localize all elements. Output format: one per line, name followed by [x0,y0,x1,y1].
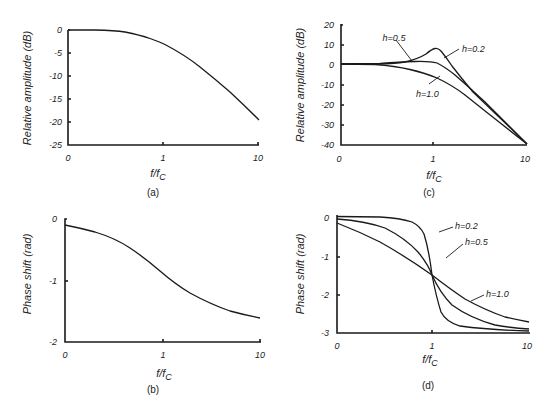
panel-c-ytick: -20 [321,100,334,110]
panel-d-ytick: -3 [321,328,329,338]
panel-c-leader-h05 [396,40,412,61]
panel-c-ytick: 10 [324,40,334,50]
panel-b-ylabel: Phase shift (rad) [21,233,33,314]
panel-c-xtick: 10 [520,154,530,164]
panel-d-ytick: -2 [321,290,329,300]
panel-d-xtick: 0 [334,341,339,351]
panel-b-xlabel: f/fC [156,367,172,382]
panel-d-ytick: 0 [324,213,329,223]
panel-c-curve-h05 [341,61,527,144]
panel-a-xlabel: f/fC [150,167,166,182]
panel-c-curve-h10 [341,64,527,144]
panel-a-xtick: 1 [160,153,165,163]
panel-d-curve-h02 [337,217,529,332]
panel-c: 20 10 0 -10 -20 -30 -40 0 1 10 Relative … [294,20,530,198]
panel-c-axes [341,24,527,145]
panel-c-annotation-h05: h=0.5 [383,33,407,43]
panel-a-ytick: -5 [54,48,63,58]
panel-d-leader-h05 [446,244,463,258]
panel-b-ytick: -2 [49,337,57,347]
panel-c-ytick: -10 [321,80,334,90]
figure-canvas: 0 -5 -10 -15 -20 -25 0 1 10 Relative amp… [0,0,553,404]
panel-a-axes [68,30,259,145]
panel-a-ylabel: Relative amplitude (dB) [21,31,33,146]
panel-a-ytick: -15 [49,94,63,104]
panel-d-leader-h02 [439,227,453,232]
panel-a: 0 -5 -10 -15 -20 -25 0 1 10 Relative amp… [21,25,263,198]
panel-a-ytick: -10 [49,71,62,81]
panel-d-xtick: 10 [522,341,532,351]
panel-d-leader-h10 [471,295,484,301]
panel-d-ytick: -1 [321,252,329,262]
panel-d-annotation-h02: h=0.2 [455,221,478,231]
panel-c-xtick: 1 [430,154,435,164]
panel-a-ytick: -20 [49,117,62,127]
panel-b: 0 -1 -2 0 1 10 Phase shift (rad) f/fC (b… [21,214,265,395]
panel-d-curve-h10 [337,223,529,322]
panel-c-ytick: 20 [323,20,334,30]
panel-b-caption: (b) [147,384,159,395]
panel-c-leader-h02 [444,49,459,58]
panel-d-xtick: 1 [429,341,434,351]
panel-a-xtick: 0 [65,153,70,163]
panel-d-caption: (d) [422,380,434,391]
panel-b-curve [65,225,260,318]
panel-b-xtick: 10 [255,350,265,360]
panel-c-xlabel: f/fC [426,169,442,184]
panel-c-ytick: -30 [321,120,334,130]
panel-c-xtick: 0 [336,154,341,164]
panel-a-caption: (a) [147,187,159,198]
panel-a-xtick: 10 [253,153,263,163]
panel-d: 0 -1 -2 -3 0 1 10 Phase shift (rad) f/fC… [294,213,532,391]
panel-c-ytick: 0 [329,60,334,70]
panel-d-annotation-h10: h=1.0 [486,289,509,299]
panel-d-ylabel: Phase shift (rad) [294,233,306,314]
panel-a-ytick: -25 [49,140,63,150]
panel-c-ylabel: Relative amplitude (dB) [294,28,306,143]
panel-a-yaxis: 0 -5 -10 -15 -20 -25 [49,25,259,150]
panel-c-annotation-h10: h=1.0 [416,89,439,99]
panel-b-ytick: -1 [49,276,57,286]
panel-c-caption: (c) [423,187,435,198]
panel-b-xtick: 1 [160,350,165,360]
panel-d-annotation-h05: h=0.5 [465,237,489,247]
panel-a-ytick: 0 [57,25,62,35]
panel-c-annotation-h02: h=0.2 [462,44,485,54]
panel-b-xtick: 0 [62,350,67,360]
panel-b-ytick: 0 [52,214,57,224]
panel-c-ytick: -40 [321,140,334,150]
panel-a-curve [68,30,259,120]
panel-d-xlabel: f/fC [422,353,438,368]
panel-b-axes [65,219,261,342]
